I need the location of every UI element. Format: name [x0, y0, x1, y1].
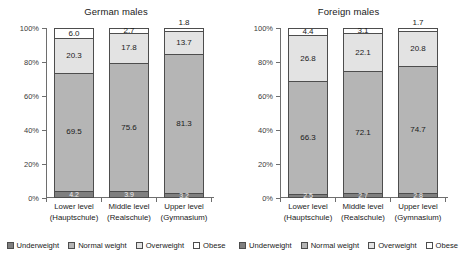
y-tick-label-80: 80% [24, 58, 39, 67]
legend-item-normal-weight[interactable]: Normal weight [301, 241, 360, 250]
y-tick-60 [42, 96, 46, 97]
segment-underweight[interactable]: 2.5 [288, 194, 328, 198]
legend-item-normal-weight[interactable]: Normal weight [68, 241, 127, 250]
legend-label-obese: Obese [436, 241, 458, 250]
segment-label-overweight: 22.1 [355, 49, 371, 57]
segment-underweight[interactable]: 2.7 [343, 193, 383, 198]
segment-overweight[interactable]: 20.3 [54, 38, 94, 73]
y-tick-label-80: 80% [258, 58, 273, 67]
y-tick-label-20: 20% [258, 160, 273, 169]
legend-label-obese: Obese [203, 241, 225, 250]
segment-label-obese: 1.7 [412, 19, 423, 27]
y-axis-line [46, 28, 47, 198]
chart-legends: Underweight Normal weight Overweight Obe… [0, 234, 465, 256]
y-tick-label-60: 60% [258, 92, 273, 101]
y-tick-label-40: 40% [258, 126, 273, 135]
plot-area-1: 100% 80% 60% 40% 20% 0% 6.0 [46, 28, 212, 198]
segment-label-normal-weight: 81.3 [176, 120, 192, 128]
segment-label-underweight: 2.5 [303, 192, 313, 199]
legend-label-normal-weight: Normal weight [78, 241, 127, 250]
legend-swatch-underweight-icon [239, 242, 246, 249]
x-axis-category-labels: Lower level (Hauptschule) Middle level (… [46, 202, 212, 232]
stacked-bar[interactable]: 1.7 20.8 74.7 2.8 [398, 28, 438, 198]
segment-overweight[interactable]: 13.7 [164, 31, 204, 54]
segment-normal-weight[interactable]: 74.7 [398, 66, 438, 193]
segment-label-normal-weight: 69.5 [66, 128, 82, 136]
panel-title: German males [0, 6, 232, 17]
stacked-bar-chart-figure: German males 100% 80% 60% 40% 20% 0% [0, 0, 465, 256]
y-axis-line [280, 28, 281, 198]
y-tick-80 [42, 62, 46, 63]
segment-normal-weight[interactable]: 81.3 [164, 54, 204, 192]
stacked-bar[interactable]: 3.1 22.1 72.1 2.7 [343, 28, 383, 198]
category-line-2: (Gymnasium) [147, 213, 221, 224]
legend-item-obese[interactable]: Obese [426, 241, 458, 250]
category-label-upper-level: Upper level (Gymnasium) [381, 202, 455, 223]
segment-obese[interactable]: 4.4 [288, 28, 328, 35]
stacked-bar[interactable]: 2.7 17.8 75.6 3.9 [109, 28, 149, 198]
legend-swatch-obese-icon [193, 242, 200, 249]
y-tick-label-100: 100% [254, 24, 273, 33]
y-tick-40 [42, 130, 46, 131]
segment-overweight[interactable]: 22.1 [343, 33, 383, 71]
legend-swatch-underweight-icon [7, 242, 14, 249]
legend-german-males: Underweight Normal weight Overweight Obe… [0, 234, 232, 256]
plot-area-2: 100% 80% 60% 40% 20% 0% 4.4 [280, 28, 446, 198]
segment-overweight[interactable]: 26.8 [288, 35, 328, 81]
category-line-1: Upper level [147, 202, 221, 213]
legend-item-overweight[interactable]: Overweight [136, 241, 184, 250]
segment-label-underweight: 2.7 [358, 192, 368, 199]
y-tick-80 [276, 62, 280, 63]
x-axis-category-labels: Lower level (Hauptschule) Middle level (… [280, 202, 446, 232]
y-tick-20 [276, 164, 280, 165]
segment-underweight[interactable]: 3.2 [164, 193, 204, 198]
segment-label-underweight: 3.2 [179, 192, 189, 199]
segment-normal-weight[interactable]: 75.6 [109, 63, 149, 192]
y-tick-label-20: 20% [24, 160, 39, 169]
category-label-upper-level: Upper level (Gymnasium) [147, 202, 221, 223]
legend-item-underweight[interactable]: Underweight [7, 241, 60, 250]
segment-underweight[interactable]: 4.2 [54, 191, 94, 198]
segment-label-normal-weight: 66.3 [300, 134, 316, 142]
segment-label-normal-weight: 75.6 [121, 124, 137, 132]
segment-overweight[interactable]: 17.8 [109, 33, 149, 63]
y-tick-label-40: 40% [24, 126, 39, 135]
segment-overweight[interactable]: 20.8 [398, 31, 438, 66]
segment-normal-weight[interactable]: 72.1 [343, 71, 383, 194]
legend-swatch-overweight-icon [136, 242, 143, 249]
stacked-bar[interactable]: 4.4 26.8 66.3 2.5 [288, 28, 328, 198]
stacked-bar[interactable]: 1.8 13.7 81.3 3.2 [164, 28, 204, 198]
category-line-1: Upper level [381, 202, 455, 213]
panel-title: Foreign males [232, 6, 465, 17]
segment-label-overweight: 17.8 [121, 44, 137, 52]
segment-label-underweight: 2.8 [413, 192, 423, 199]
legend-label-overweight: Overweight [146, 241, 184, 250]
segment-label-obese: 6.0 [68, 30, 79, 38]
legend-item-obese[interactable]: Obese [193, 241, 225, 250]
y-tick-100 [276, 28, 280, 29]
chart-panel-foreign-males: Foreign males 100% 80% 60% 40% 20% 0% [232, 0, 465, 234]
y-tick-label-100: 100% [20, 24, 39, 33]
y-tick-label-60: 60% [24, 92, 39, 101]
segment-label-underweight: 3.9 [124, 191, 134, 198]
category-line-2: (Gymnasium) [381, 213, 455, 224]
legend-label-underweight: Underweight [249, 241, 292, 250]
segment-label-overweight: 26.8 [300, 55, 316, 63]
segment-underweight[interactable]: 3.9 [109, 191, 149, 198]
segment-normal-weight[interactable]: 69.5 [54, 73, 94, 191]
legend-swatch-normal-weight-icon [68, 242, 75, 249]
legend-swatch-overweight-icon [368, 242, 375, 249]
chart-panel-german-males: German males 100% 80% 60% 40% 20% 0% [0, 0, 232, 234]
segment-label-normal-weight: 74.7 [410, 126, 426, 134]
legend-label-normal-weight: Normal weight [311, 241, 360, 250]
legend-item-underweight[interactable]: Underweight [239, 241, 292, 250]
segment-obese[interactable]: 6.0 [54, 28, 94, 38]
segment-label-obese: 1.8 [178, 19, 189, 27]
segment-normal-weight[interactable]: 66.3 [288, 81, 328, 194]
segment-underweight[interactable]: 2.8 [398, 193, 438, 198]
segment-label-overweight: 20.3 [66, 52, 82, 60]
y-tick-100 [42, 28, 46, 29]
stacked-bar[interactable]: 6.0 20.3 69.5 4.2 [54, 28, 94, 198]
legend-item-overweight[interactable]: Overweight [368, 241, 416, 250]
y-tick-40 [276, 130, 280, 131]
